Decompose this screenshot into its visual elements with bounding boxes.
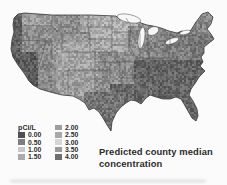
legend-entry: 0.00 [18, 131, 55, 138]
legend-column-left: pCi/L 0.000.501.001.50 [18, 124, 55, 160]
legend-entry: 3.50 [55, 146, 92, 153]
figure-title: Predicted county median concentration [99, 146, 225, 169]
legend-value: 2.00 [65, 124, 78, 131]
legend-entry: 1.00 [18, 146, 55, 153]
legend-entry: 4.00 [55, 153, 92, 160]
legend: pCi/L 0.000.501.001.50 2.002.503.003.504… [18, 124, 92, 160]
legend-value: 4.00 [65, 153, 78, 160]
legend-value: 0.00 [28, 131, 41, 138]
legend-unit-label: pCi/L [18, 124, 55, 131]
legend-entry: 3.00 [55, 139, 92, 146]
legend-swatch [18, 132, 25, 138]
legend-value: 1.50 [28, 153, 41, 160]
legend-entry: 2.00 [55, 124, 92, 131]
legend-swatch [18, 147, 25, 153]
us-choropleth-map [0, 0, 227, 140]
legend-entry: 1.50 [18, 153, 55, 160]
figure: pCi/L 0.000.501.001.50 2.002.503.003.504… [0, 0, 227, 185]
legend-value: 3.50 [65, 146, 78, 153]
legend-swatch [55, 132, 62, 138]
figure-title-line2: concentration [99, 158, 162, 169]
legend-column-right: 2.002.503.003.504.00 [55, 124, 92, 160]
legend-entry: 2.50 [55, 131, 92, 138]
cropped-caption-artifact [10, 179, 206, 183]
legend-swatch [55, 147, 62, 153]
legend-swatch [18, 154, 25, 160]
legend-swatch [55, 154, 62, 160]
legend-swatch [55, 139, 62, 145]
legend-entry: 0.50 [18, 139, 55, 146]
figure-title-line1: Predicted county median [99, 146, 213, 157]
legend-swatch [55, 125, 62, 131]
legend-swatch [18, 139, 25, 145]
legend-value: 1.00 [28, 146, 41, 153]
legend-value: 3.00 [65, 139, 78, 146]
legend-value: 2.50 [65, 131, 78, 138]
legend-value: 0.50 [28, 139, 41, 146]
